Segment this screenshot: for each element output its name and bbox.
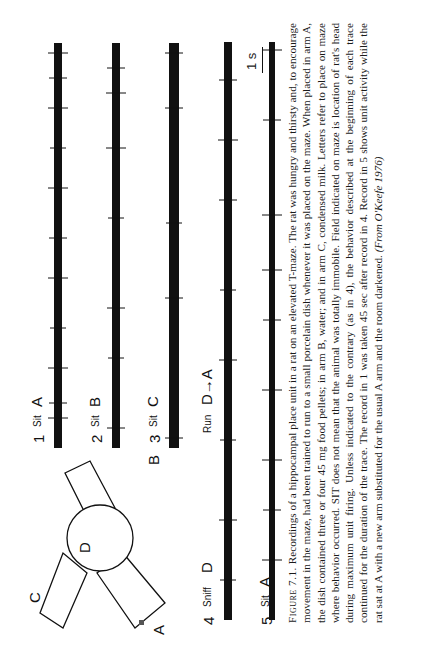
trace-5 (262, 42, 282, 620)
trace-4-behavior: Sniff (202, 587, 213, 607)
scale-bar (262, 47, 263, 73)
trace-4-behavior-2: Run (202, 415, 213, 433)
trace-1-behavior: Sit (32, 415, 43, 427)
trace-4-place: D (198, 562, 215, 573)
caption-label: Figure 7.1. (286, 567, 298, 623)
trace-2 (106, 43, 126, 448)
trace-1 (48, 43, 68, 448)
trace-4 (218, 42, 238, 620)
maze-label-c: C (26, 592, 43, 603)
trace-4-place-2: D→A (198, 369, 215, 405)
maze-diagram (35, 453, 175, 633)
trace-3 (164, 43, 184, 448)
trace-3-number: 3 (146, 435, 163, 443)
caption-text: Recordings of a hippocampal place unit i… (286, 23, 384, 623)
maze-label-a: A (150, 625, 167, 635)
trace-1-number: 1 (30, 435, 47, 443)
trace-3-behavior: Sit (148, 415, 159, 427)
trace-1-place: A (28, 397, 45, 407)
trace-3-place: C (144, 396, 161, 407)
figure-page: C D B A 1 Sit A 2 Sit B 3 Sit C (0, 0, 440, 653)
figure-caption: Figure 7.1. Recordings of a hippocampal … (285, 23, 385, 623)
trace-2-place: B (86, 397, 103, 407)
scale-bar-label: 1 s (244, 53, 259, 70)
trace-2-number: 2 (88, 435, 105, 443)
maze-label-d: D (76, 542, 93, 553)
caption-source: (From O'Keefe 1976) (372, 157, 384, 253)
maze-label-b: B (145, 455, 162, 465)
trace-4-number: 4 (200, 617, 217, 625)
trace-2-behavior: Sit (90, 415, 101, 427)
